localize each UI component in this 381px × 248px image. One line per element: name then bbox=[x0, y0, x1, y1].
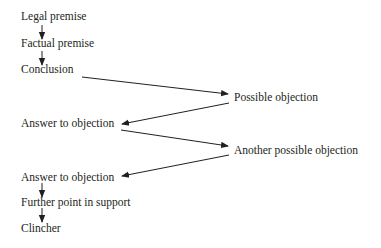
arrow-objection2-to-answer2 bbox=[122, 155, 229, 176]
node-clincher: Clincher bbox=[21, 222, 61, 235]
node-another-possible-objection: Another possible objection bbox=[234, 144, 358, 157]
node-further-point: Further point in support bbox=[21, 196, 131, 209]
node-conclusion: Conclusion bbox=[21, 63, 73, 76]
node-legal-premise: Legal premise bbox=[21, 10, 86, 23]
node-possible-objection: Possible objection bbox=[234, 91, 318, 104]
node-answer-to-objection-2: Answer to objection bbox=[21, 171, 114, 184]
arrow-conclusion-to-objection1 bbox=[82, 77, 228, 94]
argument-flow-diagram: Legal premise Factual premise Conclusion… bbox=[0, 0, 381, 248]
arrow-objection1-to-answer1 bbox=[122, 103, 229, 124]
node-answer-to-objection-1: Answer to objection bbox=[21, 117, 114, 130]
node-factual-premise: Factual premise bbox=[21, 37, 94, 50]
arrow-answer1-to-objection2 bbox=[121, 130, 228, 146]
